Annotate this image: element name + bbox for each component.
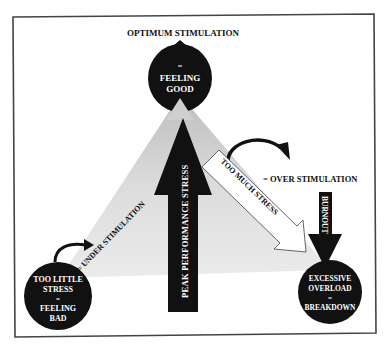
svg-text:BREAKDOWN: BREAKDOWN bbox=[305, 303, 356, 312]
svg-text:FEELING: FEELING bbox=[160, 73, 201, 83]
svg-text:BURNOUT: BURNOUT bbox=[320, 196, 329, 234]
stress-diagram: OPTIMUM STIMULATION = FEELING GOOD PEAK … bbox=[0, 0, 388, 345]
svg-text:BAD: BAD bbox=[50, 314, 67, 323]
svg-text:TOO LITTLE: TOO LITTLE bbox=[33, 275, 82, 284]
svg-text:STRESS: STRESS bbox=[43, 285, 73, 294]
svg-text:=: = bbox=[328, 294, 332, 302]
svg-text:GOOD: GOOD bbox=[166, 84, 194, 94]
node-feeling-good: = FEELING GOOD bbox=[148, 44, 212, 120]
node-feeling-bad: TOO LITTLE STRESS = FEELING BAD bbox=[24, 262, 92, 330]
svg-text:EXCESSIVE: EXCESSIVE bbox=[309, 274, 352, 283]
over-stimulation-label: = OVER STIMULATION bbox=[263, 174, 358, 184]
svg-text:=: = bbox=[178, 62, 183, 71]
svg-text:=: = bbox=[56, 295, 60, 303]
over-curved-arrow-icon bbox=[228, 140, 290, 163]
optimum-stimulation-label: OPTIMUM STIMULATION bbox=[127, 28, 240, 38]
svg-text:PEAK PERFORMANCE STRESS: PEAK PERFORMANCE STRESS bbox=[180, 165, 190, 298]
node-breakdown: EXCESSIVE OVERLOAD = BREAKDOWN bbox=[298, 260, 362, 324]
svg-text:FEELING: FEELING bbox=[40, 304, 76, 313]
svg-text:OVERLOAD: OVERLOAD bbox=[308, 284, 352, 293]
